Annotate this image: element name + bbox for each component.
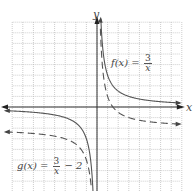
- y-axis-label: y: [93, 9, 99, 20]
- f-prefix: f(x) =: [111, 57, 140, 68]
- g-denominator: x: [54, 167, 59, 176]
- f-denominator: x: [145, 64, 150, 73]
- f-label: f(x) = 3 x: [111, 54, 153, 73]
- g-fraction: 3 x: [53, 157, 61, 176]
- g-label: g(x) = 3 x − 2: [17, 157, 82, 176]
- f-fraction: 3 x: [144, 54, 152, 73]
- g-suffix: − 2: [65, 160, 83, 171]
- x-axis-label: x: [186, 102, 192, 113]
- g-prefix: g(x) =: [17, 160, 48, 171]
